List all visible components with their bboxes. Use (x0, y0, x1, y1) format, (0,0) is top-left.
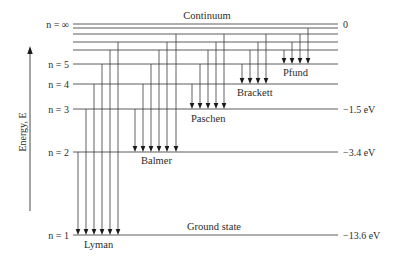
level-label: n = 3 (48, 104, 69, 115)
series-label-balmer: Balmer (141, 155, 172, 166)
energy-axis-label: Energy, E (17, 112, 28, 151)
level-label: n = 2 (48, 147, 69, 158)
level-label: n = ∞ (46, 19, 69, 30)
energy-axis: Energy, E (17, 46, 33, 211)
series-label-pfund: Pfund (283, 67, 309, 78)
transition-arrow-icon (290, 58, 295, 64)
level-energy-label: 0 (343, 19, 348, 30)
series-label-lyman: Lyman (84, 239, 114, 250)
transition-arrow-icon (100, 229, 105, 235)
transition-arrow-icon (282, 58, 287, 64)
transition-arrow-icon (190, 103, 195, 109)
series-pfund (282, 28, 311, 64)
transition-arrow-icon (108, 229, 113, 235)
level-label: n = 5 (48, 59, 69, 70)
level-energy-label: −3.4 eV (343, 147, 376, 158)
transition-arrow-icon (214, 103, 219, 109)
energy-levels: n = ∞0n = 5n = 4n = 3−1.5 eVn = 2−3.4 eV… (46, 19, 381, 241)
transition-arrow-icon (240, 78, 245, 84)
transition-arrow-icon (141, 146, 146, 152)
transition-arrow-icon (149, 146, 154, 152)
series-label-paschen: Paschen (191, 113, 226, 124)
transition-arrow-icon (116, 229, 121, 235)
ground-state-label: Ground state (187, 221, 241, 232)
series-label-brackett: Brackett (237, 87, 273, 98)
level-label: n = 1 (48, 230, 69, 241)
energy-level-4: n = 4 (48, 79, 338, 90)
transition-arrow-icon (133, 146, 138, 152)
transition-arrow-icon (76, 229, 81, 235)
transition-arrow-icon (306, 58, 311, 64)
transitions (76, 28, 311, 235)
energy-axis-arrow-icon (27, 46, 32, 54)
level-energy-label: −1.5 eV (343, 104, 376, 115)
transition-arrow-icon (248, 78, 253, 84)
transition-arrow-icon (298, 58, 303, 64)
series-paschen (190, 34, 227, 109)
continuum-label: Continuum (183, 10, 230, 21)
transition-arrow-icon (198, 103, 203, 109)
transition-arrow-icon (84, 229, 89, 235)
transition-arrow-icon (256, 78, 261, 84)
transition-arrow-icon (157, 146, 162, 152)
transition-arrow-icon (222, 103, 227, 109)
level-label: n = 4 (48, 79, 69, 90)
energy-level-diagram: n = ∞0n = 5n = 4n = 3−1.5 eVn = 2−3.4 eV… (0, 0, 401, 261)
energy-level-2: n = 2−3.4 eV (48, 147, 376, 158)
transition-arrow-icon (174, 146, 179, 152)
transition-arrow-icon (206, 103, 211, 109)
transition-arrow-icon (92, 229, 97, 235)
series-brackett (240, 34, 269, 84)
transition-arrow-icon (264, 78, 269, 84)
level-energy-label: −13.6 eV (343, 230, 381, 241)
transition-arrow-icon (165, 146, 170, 152)
series-balmer (133, 34, 179, 152)
series-lyman (76, 42, 121, 235)
